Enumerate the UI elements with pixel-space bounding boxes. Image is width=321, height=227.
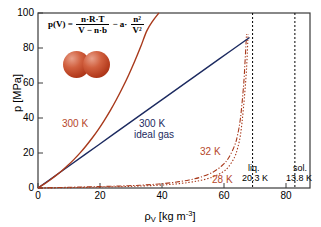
y-tick-label-40: 40	[2, 112, 34, 123]
x-axis-title-unit: [kg m	[156, 210, 186, 222]
atom-sphere-right	[83, 51, 110, 78]
y-tick-label-100: 100	[2, 7, 34, 18]
y-tick-label-80: 80	[2, 42, 34, 53]
x-tick-label-0: 0	[23, 190, 53, 201]
equation-lhs: p(V) =	[48, 19, 73, 29]
x-axis-title: ρV [kg m-3]	[145, 210, 196, 222]
label-300k-ideal-gas-line1: 300 K	[139, 118, 165, 129]
x-tick-label-80: 80	[271, 190, 301, 201]
label-liquid-temperature: 20.3 K	[242, 173, 268, 184]
label-32k: 32 K	[200, 146, 221, 157]
x-axis-title-bracket: ]	[192, 210, 195, 222]
plot-frame	[38, 13, 310, 188]
label-300k-real-gas: 300 K	[62, 118, 88, 129]
x-tick-label-20: 20	[85, 190, 115, 201]
equation-fraction-1: n·R·T V − n·b	[76, 14, 109, 35]
equation-fraction-2: n² V²	[131, 14, 144, 35]
van-der-waals-equation: p(V) = n·R·T V − n·b − a· n² V²	[48, 14, 145, 35]
x-axis-title-wrapper: ρV [kg m-3]	[110, 206, 230, 224]
label-300k-ideal-gas-line2: ideal gas	[134, 129, 174, 140]
x-tick-label-40: 40	[147, 190, 177, 201]
y-tick-label-60: 60	[2, 77, 34, 88]
x-tick-label-60: 60	[209, 190, 239, 201]
hydrogen-molecule-illustration	[63, 51, 117, 79]
equation-fraction-2-numerator: n²	[131, 14, 144, 24]
equation-fraction-2-denominator: V²	[131, 24, 144, 35]
equation-fraction-1-denominator: V − n·b	[76, 24, 109, 35]
label-28k: 28 K	[212, 174, 233, 185]
y-tick-label-20: 20	[2, 147, 34, 158]
label-solid-temperature: 13.8 K	[286, 173, 312, 184]
equation-minus-term: − a·	[112, 19, 127, 29]
equation-fraction-1-numerator: n·R·T	[76, 14, 109, 24]
vdw-pressure-density-chart: p [MPa] ρV [kg m-3] 0 20 40 60 80 100 0 …	[0, 0, 321, 227]
